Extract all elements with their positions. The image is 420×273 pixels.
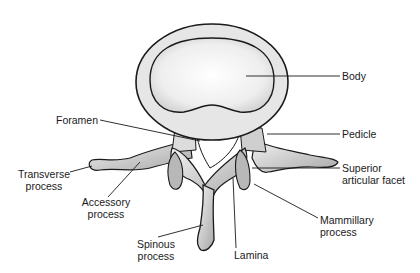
spinous-process: [198, 185, 215, 250]
label-transverse-process: Transverse process: [14, 168, 74, 192]
vertebra-diagram: Body Foramen Pedicle Transverse process …: [0, 0, 420, 273]
leader-mammillary: [254, 184, 318, 218]
label-accessory-process: Accessory process: [76, 196, 136, 220]
leader-lamina: [233, 178, 236, 248]
label-body: Body: [342, 70, 366, 82]
label-foramen: Foramen: [56, 114, 98, 126]
label-spinous-process: Spinous process: [128, 238, 184, 262]
label-lamina: Lamina: [234, 249, 268, 261]
leader-spinous: [158, 225, 203, 237]
label-mammillary-process: Mammillary process: [320, 214, 374, 238]
label-superior-articular-facet: Superior articular facet: [342, 162, 405, 186]
label-pedicle: Pedicle: [342, 128, 376, 140]
superior-articular-facet-right: [236, 150, 251, 190]
vertebral-body-inner: [150, 38, 274, 112]
